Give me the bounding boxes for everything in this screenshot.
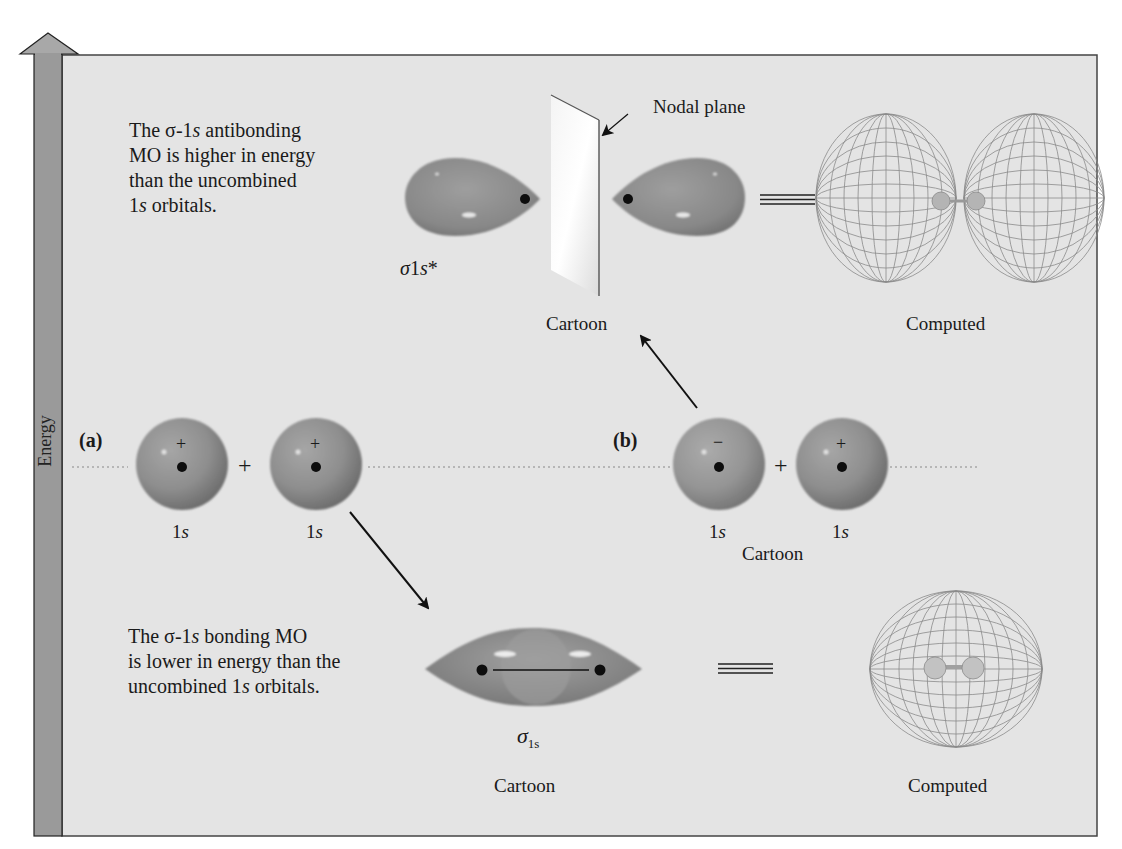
- antibonding-computed-label: Computed: [906, 313, 985, 335]
- antibonding-symbol: σ1s*: [400, 256, 438, 281]
- nucleus-dot: [714, 462, 724, 472]
- row-a-tag: (a): [79, 429, 102, 452]
- antibonding-cartoon-label: Cartoon: [546, 313, 607, 335]
- energy-axis-label: Energy: [32, 428, 58, 454]
- phase-sign: +: [310, 433, 320, 455]
- bonding-symbol-subscript: 1s: [528, 736, 540, 751]
- nucleus-dot: [623, 194, 633, 204]
- orbital-label-1s: 1s: [832, 521, 849, 543]
- phase-sign: +: [836, 433, 846, 455]
- orbital-label-1s: 1s: [172, 521, 189, 543]
- nucleus-dot: [595, 665, 606, 676]
- bonding-cartoon-label: Cartoon: [494, 775, 555, 797]
- nodal-plane: [551, 95, 599, 296]
- bonding-computed-label: Computed: [908, 775, 987, 797]
- nucleus-dot: [177, 462, 187, 472]
- bonding-symbol: σ1s: [517, 723, 539, 756]
- orbital-label-1s: 1s: [709, 521, 726, 543]
- phase-sign: +: [176, 433, 186, 455]
- orbital-label-1s: 1s: [306, 521, 323, 543]
- combine-plus-sign: +: [774, 454, 788, 476]
- bonding-description: The σ-1s bonding MO is lower in energy t…: [128, 624, 340, 699]
- combine-plus-sign: +: [238, 454, 252, 476]
- nodal-plane-label: Nodal plane: [653, 94, 745, 119]
- nucleus-dot: [520, 194, 530, 204]
- nucleus-dot: [311, 462, 321, 472]
- phase-sign: −: [713, 431, 723, 453]
- row-b-tag: (b): [613, 429, 637, 452]
- antibonding-description: The σ-1s antibonding MO is higher in ene…: [129, 118, 315, 218]
- row-b-cartoon-label: Cartoon: [742, 543, 803, 565]
- nucleus-dot: [477, 665, 488, 676]
- nucleus-dot: [837, 462, 847, 472]
